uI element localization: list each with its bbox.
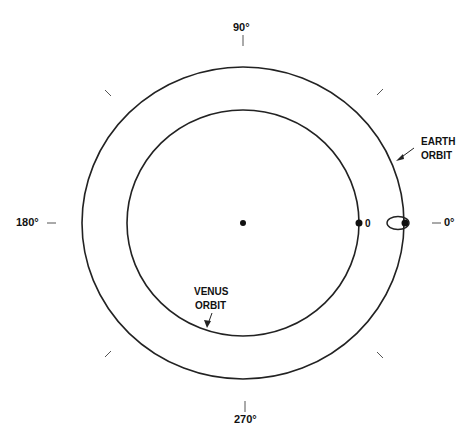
venus-marker-label: 0 <box>365 218 371 229</box>
venus-orbit-arrowhead <box>204 320 211 328</box>
tick-315 <box>377 352 383 358</box>
earth-orbit-label-line2: ORBIT <box>421 150 452 161</box>
tick-45 <box>377 89 383 95</box>
label-0-degrees: 0° <box>444 216 455 228</box>
sun-center-dot <box>240 220 246 226</box>
earth-orbit-arrowhead <box>396 154 404 161</box>
tick-135 <box>105 90 111 96</box>
venus-orbit-label-line2: ORBIT <box>195 300 226 311</box>
label-270-degrees: 270° <box>234 413 257 425</box>
tick-225 <box>105 351 111 357</box>
venus-position-dot <box>356 220 363 227</box>
earth-position-dot <box>402 220 409 227</box>
orbit-diagram: 0 90° 270° 180° 0° EARTH ORBIT VENUS ORB… <box>0 0 473 437</box>
venus-orbit-label-line1: VENUS <box>194 286 229 297</box>
earth-orbit-label-line1: EARTH <box>421 136 455 147</box>
figure-caption <box>18 426 458 436</box>
label-180-degrees: 180° <box>16 216 39 228</box>
label-90-degrees: 90° <box>233 21 250 33</box>
